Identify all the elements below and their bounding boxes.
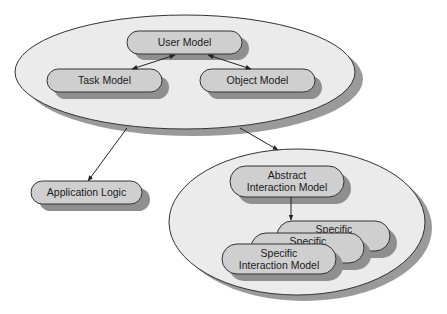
node-label-line2: Interaction Model — [247, 181, 328, 193]
node-label-line2: Interaction Model — [239, 259, 320, 271]
node-task-model[interactable]: Task Model — [47, 69, 169, 99]
node-label: Task Model — [78, 74, 131, 86]
node-label: Application Logic — [47, 186, 126, 198]
node-label: Object Model — [227, 74, 289, 86]
node-object-model[interactable]: Object Model — [200, 69, 322, 99]
node-user-model[interactable]: User Model — [127, 31, 249, 60]
edge-to-application-logic — [88, 128, 127, 181]
node-application-logic[interactable]: Application Logic — [31, 181, 150, 211]
node-specific-interaction-model-front[interactable]: Specific Interaction Model — [222, 244, 343, 281]
node-label: User Model — [158, 36, 212, 48]
node-label-line1: Specific — [261, 247, 298, 259]
diagram-canvas: User Model Task Model Object Model Appli… — [0, 0, 447, 314]
node-label-line1: Abstract — [268, 169, 307, 181]
